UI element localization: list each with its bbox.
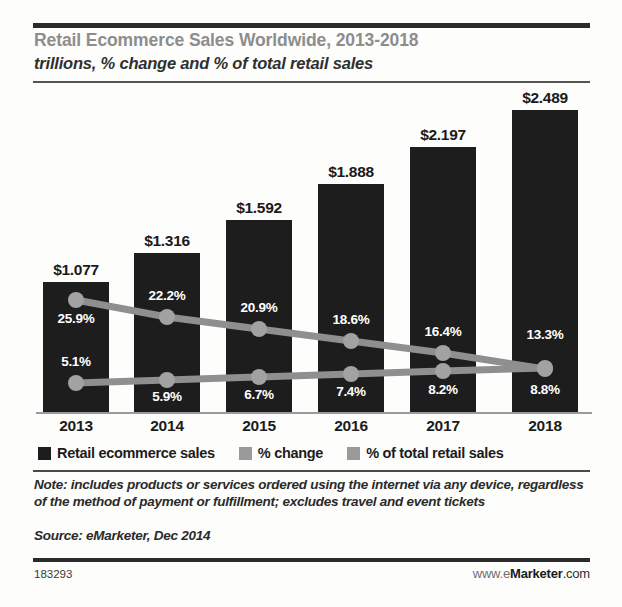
chart-id: 183293	[34, 568, 72, 580]
label-share-2017: 8.2%	[407, 382, 479, 397]
x-axis-label-2017: 2017	[393, 417, 493, 435]
x-axis-label-2014: 2014	[117, 417, 217, 435]
brand-name: Marketer	[510, 566, 563, 581]
marker-change-2017	[435, 345, 451, 361]
line-series-overlay	[0, 0, 622, 607]
marker-share-2016	[343, 366, 359, 382]
legend-item-percent-of-total: % of total retail sales	[347, 445, 503, 461]
label-share-2015: 6.7%	[223, 387, 295, 402]
label-change-2018: 13.3%	[509, 327, 581, 342]
label-share-2014: 5.9%	[131, 389, 203, 404]
marker-share-2018	[537, 360, 553, 376]
footer-rule	[33, 558, 590, 562]
label-change-2016: 18.6%	[315, 312, 387, 327]
brand-prefix: www.e	[473, 566, 510, 581]
marker-share-2014	[159, 372, 175, 388]
x-axis-label-2015: 2015	[209, 417, 309, 435]
emarketer-chart-card: Retail Ecommerce Sales Worldwide, 2013-2…	[0, 0, 622, 607]
line-percent-of-total	[76, 368, 545, 383]
legend-label-sales: Retail ecommerce sales	[57, 445, 215, 461]
chart-legend: Retail ecommerce sales % change % of tot…	[38, 443, 598, 463]
marker-change-2014	[159, 309, 175, 325]
legend-item-percent-change: % change	[239, 445, 323, 461]
label-change-2017: 16.4%	[407, 324, 479, 339]
marker-change-2015	[251, 321, 267, 337]
x-axis-label-2018: 2018	[495, 417, 595, 435]
note-rule	[33, 470, 590, 472]
chart-plot-area: $1.077 $1.316 $1.592 $1.888 $2.197 $2.48…	[0, 0, 622, 607]
legend-swatch-icon-share	[347, 447, 360, 460]
label-change-2015: 20.9%	[223, 300, 295, 315]
legend-label-share: % of total retail sales	[366, 445, 503, 461]
label-share-2016: 7.4%	[315, 384, 387, 399]
legend-swatch-icon-sales	[38, 447, 51, 460]
marker-share-2017	[435, 363, 451, 379]
x-axis-label-2016: 2016	[301, 417, 401, 435]
legend-item-retail-ecommerce-sales: Retail ecommerce sales	[38, 445, 215, 461]
x-axis-line	[36, 412, 592, 414]
label-share-2013: 5.1%	[40, 354, 112, 369]
brand-tld: .com	[563, 566, 590, 581]
marker-change-2016	[343, 333, 359, 349]
label-share-2018: 8.8%	[509, 382, 581, 397]
marker-share-2013	[68, 375, 84, 391]
marker-change-2013	[68, 292, 84, 308]
chart-note: Note: includes products or services orde…	[34, 477, 594, 510]
legend-label-change: % change	[258, 445, 323, 461]
legend-swatch-icon-change	[239, 447, 252, 460]
label-change-2014: 22.2%	[131, 288, 203, 303]
chart-source: Source: eMarketer, Dec 2014	[34, 528, 594, 543]
label-change-2013: 25.9%	[40, 311, 112, 326]
x-axis-label-2013: 2013	[26, 417, 126, 435]
marker-share-2015	[251, 369, 267, 385]
brand-watermark: www.eMarketer.com	[473, 566, 590, 581]
